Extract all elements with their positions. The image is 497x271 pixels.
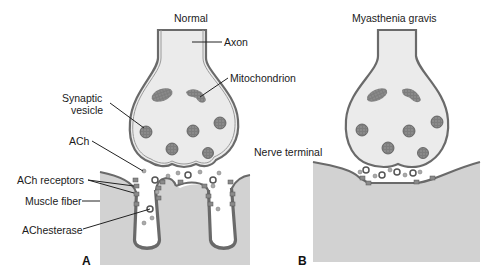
label-ach-receptors: ACh receptors — [17, 174, 84, 186]
panel-b-muscle-fiber — [313, 162, 480, 262]
panel-b-nerve-terminal — [346, 30, 448, 167]
panel-a-title: Normal — [174, 12, 208, 24]
panel-a-letter: A — [82, 254, 91, 268]
label-nerve-terminal: Nerve terminal — [254, 146, 322, 158]
label-muscle-fiber: Muscle fiber — [25, 195, 82, 207]
label-mitochondrion: Mitochondrion — [230, 72, 296, 84]
label-synaptic-vesicle-line1: Synaptic — [62, 92, 102, 104]
panel-a-muscle-fiber — [100, 172, 250, 265]
panel-b-letter: B — [298, 254, 307, 268]
label-ach: ACh — [69, 135, 89, 147]
label-synaptic-vesicle-line2: vesicle — [71, 104, 103, 116]
neuromuscular-junction-diagram: Normal Axon Mitochondrion Synaptic vesic… — [0, 0, 497, 271]
panel-b-title: Myasthenia gravis — [352, 12, 437, 24]
panel-a-nerve-terminal — [130, 30, 239, 167]
label-axon: Axon — [224, 36, 248, 48]
label-achesterase: AChesterase — [22, 224, 83, 236]
